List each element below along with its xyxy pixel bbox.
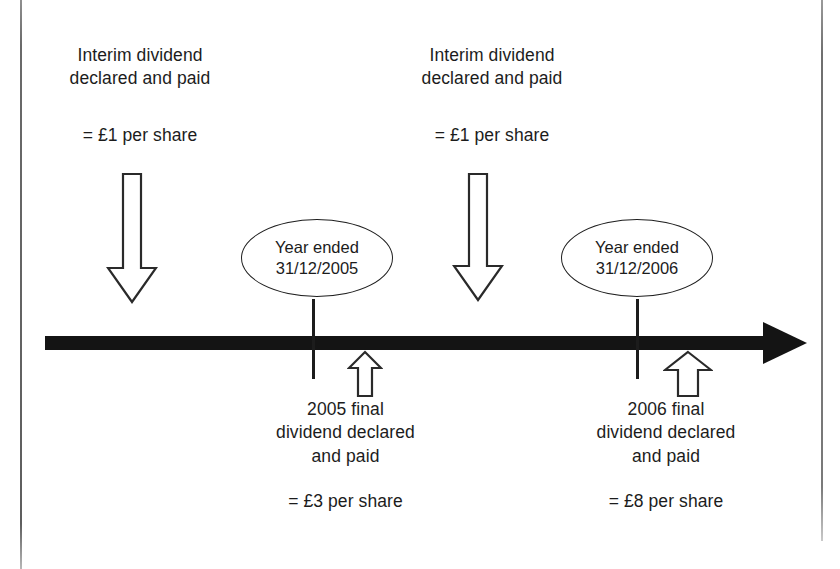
up-arrow-icon [347,350,383,398]
down-arrow-icon [106,172,158,304]
down-arrow-icon [452,172,504,302]
up-arrow-icon [663,350,713,398]
scan-border-left [20,0,22,569]
timeline-arrowhead-icon [763,322,807,364]
final-dividend-2005-amount: = £3 per share [243,490,448,513]
scan-border-right [821,0,823,541]
interim-dividend-1-amount: = £1 per share [30,124,250,147]
interim-dividend-2-title: Interim dividend declared and paid [382,44,602,91]
timeline-tick-2006 [636,299,639,379]
year-end-marker-2006: Year ended 31/12/2006 [561,219,713,297]
interim-dividend-1-title: Interim dividend declared and paid [30,44,250,91]
year-end-marker-2006-label: Year ended 31/12/2006 [595,237,679,280]
interim-dividend-2-amount: = £1 per share [382,124,602,147]
final-dividend-2005-title: 2005 final dividend declared and paid [243,398,448,468]
year-end-marker-2005-label: Year ended 31/12/2005 [275,237,359,280]
timeline-tick-2005 [312,299,315,379]
final-dividend-2006-title: 2006 final dividend declared and paid [562,398,770,468]
diagram-canvas: Interim dividend declared and paid = £1 … [0,0,840,569]
final-dividend-2006-amount: = £8 per share [562,490,770,513]
year-end-marker-2005: Year ended 31/12/2005 [241,219,393,297]
timeline-axis [45,336,775,350]
